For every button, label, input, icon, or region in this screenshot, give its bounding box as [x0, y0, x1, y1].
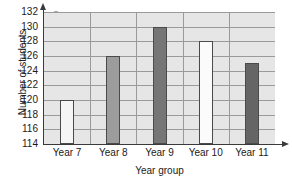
- y-axis-tick-labels: 114116118120122124126128130132: [14, 12, 38, 144]
- x-axis-tick-label: Year 10: [189, 147, 223, 159]
- y-axis-tick-label: 122: [21, 80, 38, 90]
- y-axis-arrow-icon: [40, 3, 46, 10]
- y-axis-tick-label: 128: [21, 36, 38, 46]
- bar-year-7: [60, 100, 74, 144]
- y-axis-tick-label: 116: [22, 124, 38, 134]
- x-axis-tick-label: Year 7: [53, 147, 82, 159]
- vertical-gridline: [90, 12, 91, 144]
- horizontal-gridline: [44, 12, 275, 13]
- x-axis-title: Year group: [44, 165, 275, 176]
- x-axis-line: [43, 144, 283, 145]
- vertical-gridline: [229, 12, 230, 144]
- x-axis-tick-labels: Year 7Year 8Year 9Year 10Year 11: [44, 147, 275, 161]
- y-axis-tick-label: 126: [21, 51, 38, 61]
- y-axis-tick-label: 132: [21, 7, 38, 17]
- x-axis-tick-label: Year 11: [235, 147, 268, 159]
- y-axis-tick-label: 114: [22, 139, 38, 149]
- y-axis-tick-label: 120: [21, 95, 38, 105]
- bar-year-9: [153, 27, 167, 144]
- bar-year-10: [199, 41, 213, 144]
- bar-year-11: [245, 63, 259, 144]
- x-axis-tick-label: Year 9: [145, 147, 174, 159]
- plot-area: [44, 12, 275, 144]
- y-axis-tick-label: 130: [21, 22, 38, 32]
- bar-year-8: [106, 56, 120, 144]
- vertical-gridline: [183, 12, 184, 144]
- vertical-gridline: [136, 12, 137, 144]
- y-axis-tick-label: 118: [22, 110, 38, 120]
- x-axis-arrow-icon: [282, 141, 289, 147]
- y-axis-tick-label: 124: [21, 66, 38, 76]
- bar-chart: Number of students 114116118120122124126…: [0, 0, 292, 188]
- x-axis-tick-label: Year 8: [99, 147, 128, 159]
